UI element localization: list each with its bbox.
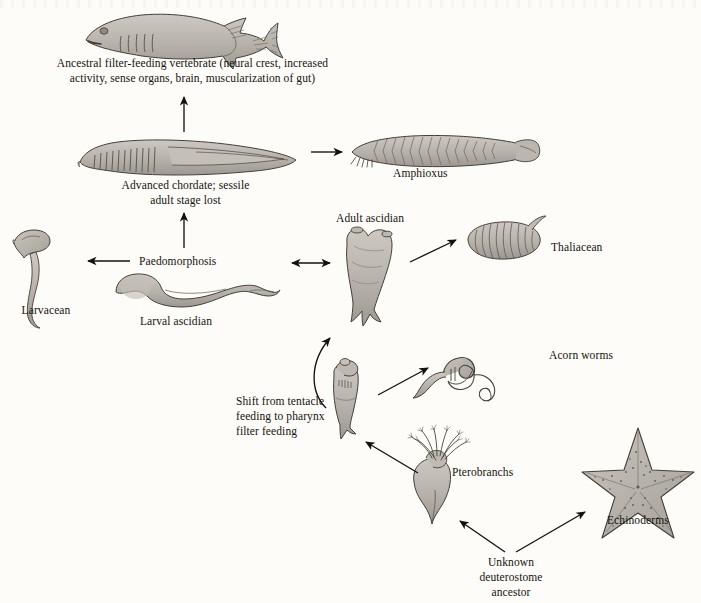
arrow-pterobranchs-to-tentacle-feeder [366,442,418,473]
label-unknown-ancestor: Unknown deuterostome ancestor [457,555,565,601]
lancelet-icon [78,140,296,175]
label-adult-ascidian: Adult ascidian [336,211,404,226]
label-larvacean: Larvacean [0,303,92,318]
tadpole-larva-icon [116,274,280,307]
arrow-unknown-ancestor-to-pterobranchs [460,521,505,552]
label-advanced-chordate: Advanced chordate; sessile adult stage l… [88,178,283,208]
salp-icon [468,216,546,259]
diagram-canvas: Ancestral filter-feeding vertebrate (neu… [0,0,701,603]
label-ancestral-vertebrate: Ancestral filter-feeding vertebrate (neu… [20,56,365,86]
label-amphioxus: Amphioxus [393,166,448,181]
illustration-layer [0,0,701,603]
arrow-tentacle-feeder-to-acorn-worms [378,368,428,395]
amphioxus-icon [351,135,540,167]
label-echinoderms: Echinoderms [607,513,669,528]
label-pterobranchs: Pterobranchs [452,465,513,480]
label-larval-ascidian: Larval ascidian [140,314,212,329]
arrow-adult-ascidian-to-thaliacean [410,240,456,262]
acorn-worm-icon [413,357,495,401]
sea-squirt-icon [347,227,392,326]
arrow-unknown-ancestor-to-echinoderms [516,512,585,552]
scan-artifact-band [0,0,701,8]
label-paedomorphosis: Paedomorphosis [139,254,216,269]
label-shift-feeding: Shift from tentacle feeding to pharynx f… [236,394,341,440]
label-thaliacean: Thaliacean [551,240,602,255]
label-acorn-worms: Acorn worms [549,348,613,363]
